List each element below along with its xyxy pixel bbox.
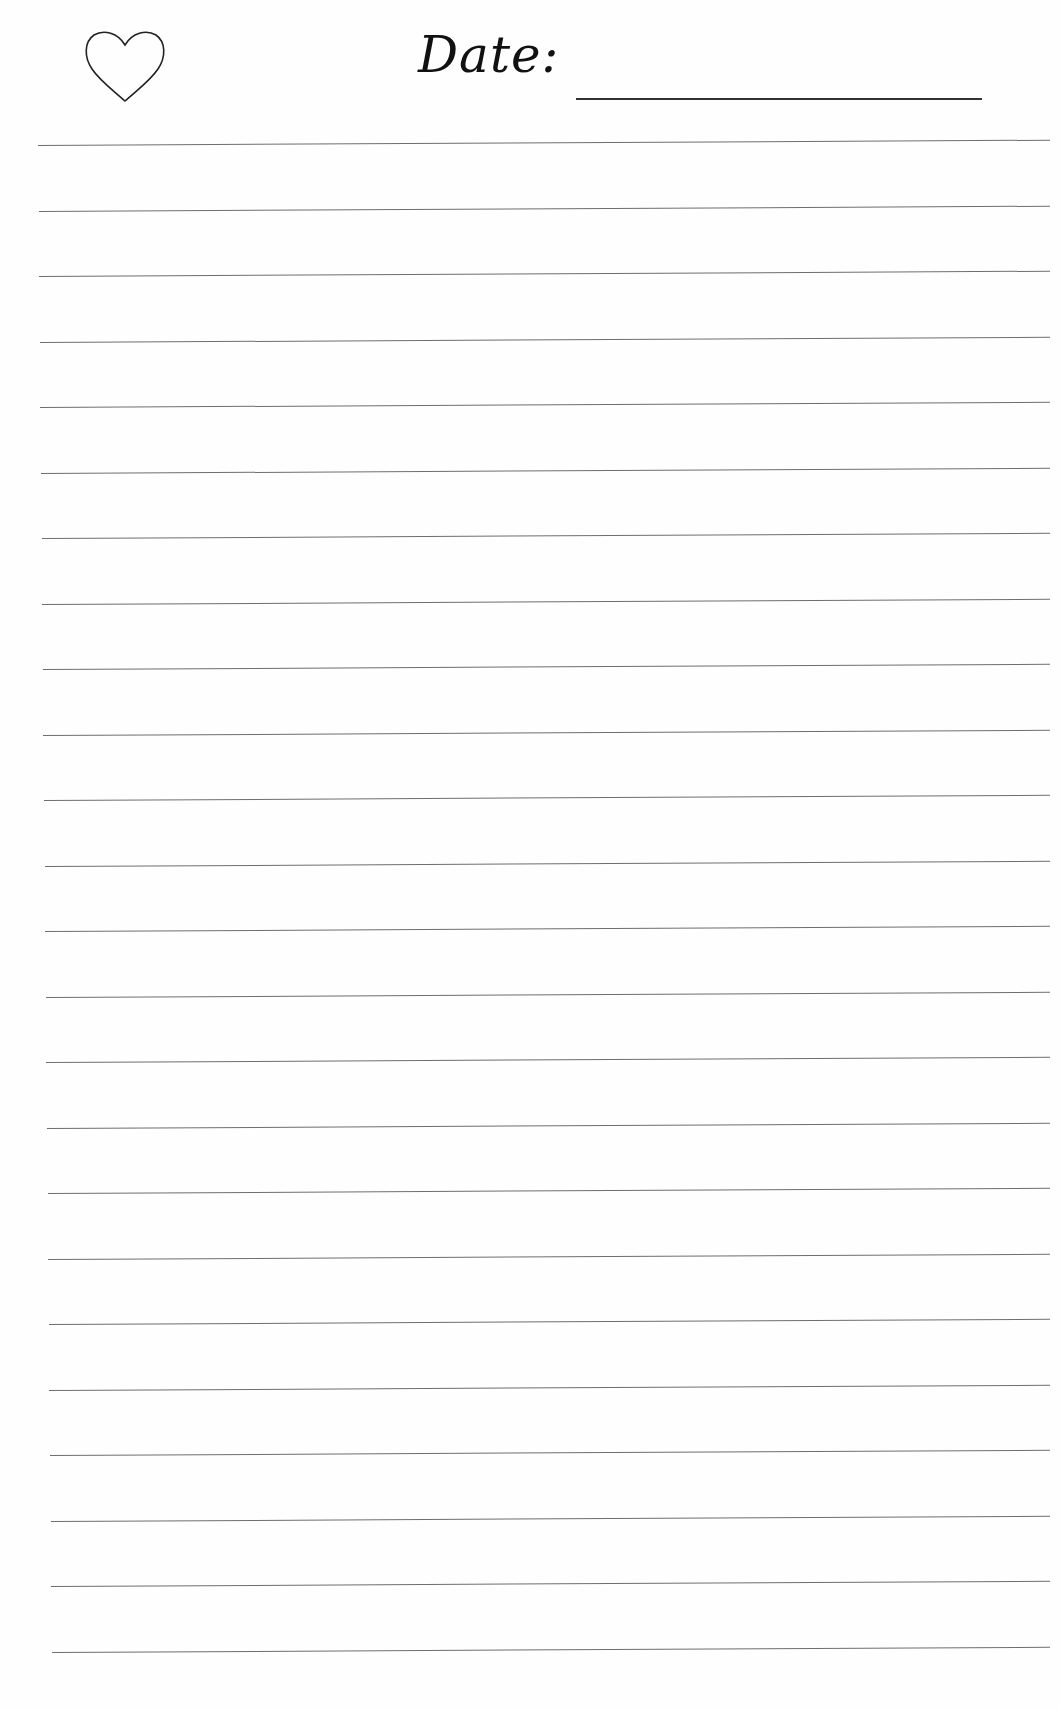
ruled-line[interactable] [45,926,1050,932]
ruled-line[interactable] [47,1122,1050,1128]
ruled-line[interactable] [49,1384,1050,1390]
ruled-line[interactable] [48,1188,1050,1194]
ruled-line[interactable] [49,1319,1050,1325]
ruled-line[interactable] [39,271,1050,277]
ruled-line[interactable] [41,467,1050,473]
ruled-lines [0,0,1060,1709]
ruled-line[interactable] [52,1646,1050,1652]
notebook-page: Date: [0,0,1060,1709]
ruled-line[interactable] [40,336,1050,342]
ruled-line[interactable] [51,1515,1050,1521]
ruled-line[interactable] [43,729,1050,735]
ruled-line[interactable] [39,205,1050,211]
ruled-line[interactable] [46,1057,1050,1063]
ruled-line[interactable] [48,1253,1050,1259]
ruled-line[interactable] [42,533,1050,539]
ruled-line[interactable] [38,140,1050,146]
ruled-line[interactable] [46,991,1050,997]
ruled-line[interactable] [44,795,1050,801]
ruled-line[interactable] [51,1581,1050,1587]
ruled-line[interactable] [40,402,1050,408]
ruled-line[interactable] [45,860,1050,866]
ruled-line[interactable] [42,598,1050,604]
ruled-line[interactable] [50,1450,1050,1456]
ruled-line[interactable] [43,664,1050,670]
